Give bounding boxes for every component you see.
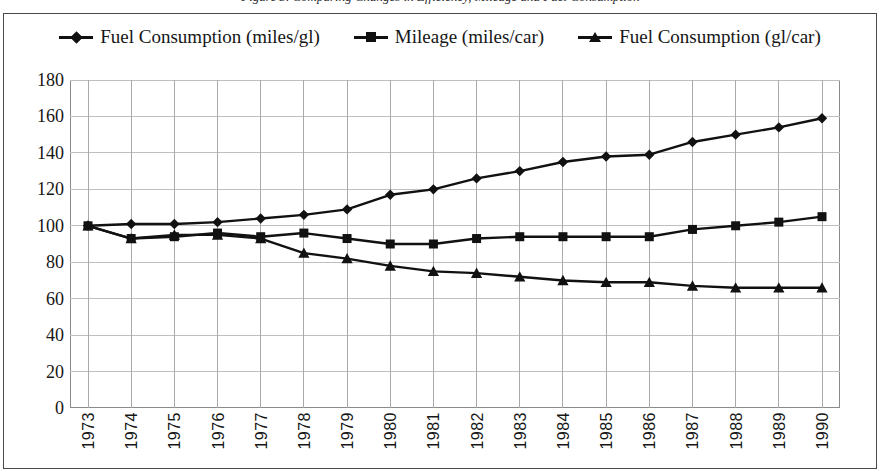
diamond-data-point bbox=[385, 190, 395, 200]
x-axis-tick-label: 1990 bbox=[814, 412, 832, 450]
x-axis-tick-label: 1980 bbox=[382, 412, 400, 450]
chart-legend: Fuel Consumption (miles/gl) Mileage (mil… bbox=[3, 22, 877, 52]
triangle-marker-icon bbox=[578, 30, 612, 44]
legend-item-fuel-consumption-gl-per-car[interactable]: Fuel Consumption (gl/car) bbox=[578, 26, 821, 48]
square-data-point bbox=[386, 240, 395, 249]
x-axis-tick-label: 1987 bbox=[684, 412, 702, 450]
diamond-data-point bbox=[169, 219, 179, 229]
x-axis-tick-label: 1986 bbox=[641, 412, 659, 450]
x-axis-tick-label: 1977 bbox=[253, 412, 271, 450]
diamond-marker-icon bbox=[59, 30, 93, 44]
diamond-data-point bbox=[774, 122, 784, 132]
chart-figure: Figure 3. Comparing Changes in Efficienc… bbox=[0, 0, 881, 475]
y-axis-tick-label: 180 bbox=[37, 70, 64, 91]
x-axis-tick-label: 1976 bbox=[210, 412, 228, 450]
x-axis-tick-label: 1984 bbox=[555, 412, 573, 450]
diamond-data-point bbox=[558, 157, 568, 167]
x-axis-tick-label: 1985 bbox=[598, 412, 616, 450]
legend-label: Fuel Consumption (miles/gl) bbox=[100, 26, 320, 48]
series-line-0 bbox=[88, 118, 822, 226]
square-data-point bbox=[299, 229, 308, 238]
diamond-data-point bbox=[471, 173, 481, 183]
y-axis-tick-label: 100 bbox=[37, 215, 64, 236]
y-axis-tick-label: 60 bbox=[46, 288, 64, 309]
series-line-1 bbox=[88, 217, 822, 244]
square-data-point bbox=[688, 225, 697, 234]
y-axis-tick-label: 160 bbox=[37, 106, 64, 127]
diamond-data-point bbox=[428, 184, 438, 194]
x-axis-tick-label: 1983 bbox=[512, 412, 530, 450]
square-data-point bbox=[515, 232, 524, 241]
x-axis-tick-label: 1979 bbox=[339, 412, 357, 450]
x-axis-tick-label: 1978 bbox=[296, 412, 314, 450]
diamond-data-point bbox=[644, 150, 654, 160]
x-axis-tick-labels: 1973197419751976197719781979198019811982… bbox=[70, 412, 840, 470]
square-data-point bbox=[602, 232, 611, 241]
legend-item-mileage-miles-per-car[interactable]: Mileage (miles/car) bbox=[354, 26, 544, 48]
diamond-data-point bbox=[687, 137, 697, 147]
square-data-point bbox=[558, 232, 567, 241]
square-marker-icon bbox=[354, 30, 388, 44]
plot-area bbox=[70, 80, 840, 408]
figure-title-clipped: Figure 3. Comparing Changes in Efficienc… bbox=[0, 0, 881, 13]
series-line-2 bbox=[88, 226, 822, 288]
x-axis-tick-label: 1989 bbox=[771, 412, 789, 450]
diamond-data-point bbox=[730, 129, 740, 139]
y-axis-tick-label: 40 bbox=[46, 325, 64, 346]
x-axis-tick-label: 1988 bbox=[728, 412, 746, 450]
x-axis-tick-label: 1981 bbox=[425, 412, 443, 450]
series-canvas bbox=[70, 80, 840, 408]
legend-item-fuel-consumption-miles-per-gl[interactable]: Fuel Consumption (miles/gl) bbox=[59, 26, 320, 48]
square-data-point bbox=[774, 218, 783, 227]
x-axis-tick-label: 1974 bbox=[123, 412, 141, 450]
x-axis-tick-label: 1973 bbox=[80, 412, 98, 450]
y-axis-tick-label: 20 bbox=[46, 361, 64, 382]
y-axis-tick-labels: 020406080100120140160180 bbox=[0, 80, 64, 408]
diamond-data-point bbox=[342, 204, 352, 214]
diamond-data-point bbox=[817, 113, 827, 123]
square-data-point bbox=[818, 212, 827, 221]
y-axis-tick-label: 140 bbox=[37, 142, 64, 163]
legend-label: Fuel Consumption (gl/car) bbox=[619, 26, 821, 48]
legend-label: Mileage (miles/car) bbox=[395, 26, 544, 48]
y-axis-tick-label: 80 bbox=[46, 252, 64, 273]
diamond-data-point bbox=[126, 219, 136, 229]
diamond-data-point bbox=[299, 210, 309, 220]
diamond-data-point bbox=[515, 166, 525, 176]
y-axis-tick-label: 0 bbox=[55, 398, 64, 419]
square-data-point bbox=[429, 240, 438, 249]
y-axis-tick-label: 120 bbox=[37, 179, 64, 200]
square-data-point bbox=[343, 234, 352, 243]
figure-title-text: Figure 3. Comparing Changes in Efficienc… bbox=[0, 0, 881, 5]
x-axis-tick-label: 1982 bbox=[469, 412, 487, 450]
x-axis-tick-label: 1975 bbox=[166, 412, 184, 450]
square-data-point bbox=[731, 221, 740, 230]
diamond-data-point bbox=[256, 213, 266, 223]
square-data-point bbox=[645, 232, 654, 241]
square-data-point bbox=[472, 234, 481, 243]
